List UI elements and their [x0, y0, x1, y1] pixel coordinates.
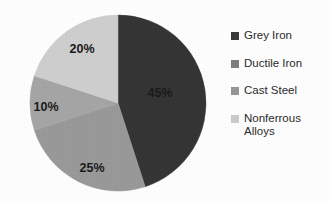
chart-legend: Grey IronDuctile IronCast SteelNonferrou… [231, 29, 331, 189]
pie-data-label-cast-steel: 10% [33, 100, 58, 114]
legend-swatch-icon [231, 115, 239, 123]
pie-chart-figure: 45%25%10%20% Grey IronDuctile IronCast S… [0, 0, 331, 202]
legend-item-label: Cast Steel [244, 84, 297, 98]
pie-data-label-nonferrous-alloys: 20% [69, 42, 94, 56]
legend-item-label: Nonferrous Alloys [244, 112, 301, 139]
legend-item-grey-iron[interactable]: Grey Iron [231, 29, 331, 43]
pie-data-label-grey-iron: 45% [147, 86, 172, 100]
pie-svg: 45%25%10%20% [0, 0, 220, 202]
legend-item-nonferrous-alloys[interactable]: Nonferrous Alloys [231, 112, 331, 139]
legend-item-label: Ductile Iron [244, 57, 302, 71]
legend-item-cast-steel[interactable]: Cast Steel [231, 84, 331, 98]
legend-swatch-icon [231, 87, 239, 95]
pie-data-label-ductile-iron: 25% [79, 161, 104, 175]
legend-item-label: Grey Iron [244, 29, 292, 43]
pie-plot-area: 45%25%10%20% [0, 0, 220, 202]
legend-swatch-icon [231, 60, 239, 68]
legend-item-ductile-iron[interactable]: Ductile Iron [231, 57, 331, 71]
legend-swatch-icon [231, 32, 239, 40]
